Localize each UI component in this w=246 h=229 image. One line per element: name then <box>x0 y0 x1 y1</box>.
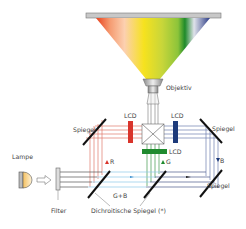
beam-g-label: G <box>166 158 171 165</box>
arrow-dark <box>186 176 191 178</box>
light-arrow <box>37 176 51 185</box>
mirror-right-top-label: Spiegel <box>212 125 235 133</box>
lcd-red-label: LCD <box>124 112 137 119</box>
filter <box>56 168 60 190</box>
arrow-r <box>105 160 109 164</box>
lcd-green <box>142 149 167 154</box>
lcd-red <box>128 121 133 143</box>
projector-diagram: Objektiv <box>0 0 246 229</box>
lcd-green-label: LCD <box>169 148 182 155</box>
filter-label: Filter <box>51 207 67 214</box>
beam-gb-label: G+B <box>113 192 127 199</box>
beam-b-label: B <box>220 157 224 164</box>
blue-beam <box>164 126 218 188</box>
x-cube-prism <box>142 124 164 144</box>
mirror-right-bottom-label: Spiegel <box>207 182 230 190</box>
lcd-blue-label: LCD <box>171 112 184 119</box>
dichroic-mirror-1 <box>88 171 110 198</box>
beam-r-label: R <box>110 158 115 165</box>
arrow-g <box>161 160 165 164</box>
white-beam <box>60 172 102 187</box>
objective-label: Objektiv <box>166 84 192 92</box>
arrow-cyan <box>130 176 134 178</box>
lamp <box>19 172 32 188</box>
lamp-label: Lampe <box>12 153 33 161</box>
light-cone <box>96 18 210 79</box>
mirror-left-label: Spiegel <box>73 126 96 134</box>
dichroic-pointer-1 <box>95 193 110 206</box>
dichroic-pointer-2 <box>140 193 150 206</box>
lcd-blue <box>173 121 178 143</box>
output-beams <box>148 104 158 124</box>
objective-lens <box>143 79 163 104</box>
projection-screen <box>86 13 221 18</box>
dichroic-label: Dichroitische Spiegel (*) <box>91 207 166 215</box>
